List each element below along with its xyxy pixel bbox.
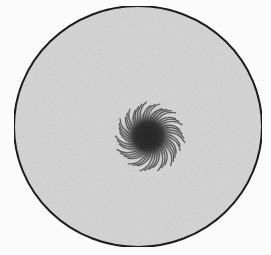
figure-canvas bbox=[0, 0, 271, 255]
colony-center bbox=[136, 126, 158, 148]
colony-dish-illustration bbox=[0, 0, 271, 255]
